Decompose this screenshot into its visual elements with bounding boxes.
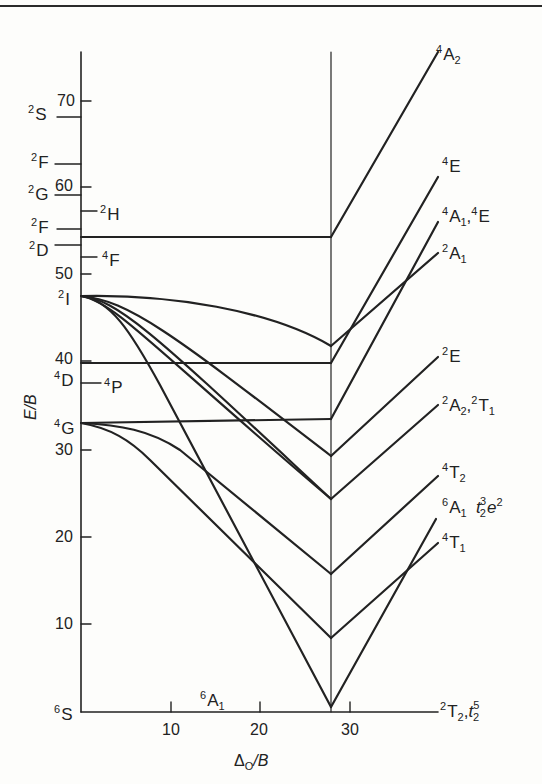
term-6S: 6S (54, 704, 72, 723)
x-ticks (171, 702, 350, 712)
term-4P: 4P (104, 377, 122, 396)
state-2A1: 2A1 (442, 243, 467, 265)
y-tick-40: 40 (55, 351, 73, 367)
state-4A1-4E: 4A1,4E (442, 206, 490, 228)
x-tick-30: 30 (341, 722, 359, 738)
y-axis-label: E/B (22, 394, 40, 420)
state-4T2: 4T2 (442, 462, 466, 484)
4T2-curve (81, 423, 331, 574)
term-2F-lower: 2F (31, 217, 49, 236)
y-tick-70: 70 (57, 93, 75, 109)
term-2H: 2H (100, 204, 119, 223)
state-4A2: 4A2 (436, 44, 461, 66)
x-tick-20: 20 (250, 722, 268, 738)
state-4E: 4E (442, 156, 460, 175)
term-2D: 2D (29, 240, 48, 259)
y-tick-10: 10 (55, 616, 73, 632)
y-tick-60: 60 (55, 178, 73, 194)
free-ion-marks (55, 117, 101, 383)
x-tick-10: 10 (162, 722, 180, 738)
6A1-right (331, 519, 436, 707)
x-axis-label: ΔO/B (234, 752, 268, 772)
state-2A2-2T1: 2A2,2T1 (442, 395, 495, 417)
state-6A1-t2e: 6A1 t23e2 (442, 496, 504, 519)
term-4G: 4G (54, 418, 74, 437)
term-2F-upper: 2F (31, 152, 49, 171)
2T2-curve (81, 296, 331, 707)
state-4T1: 4T1 (442, 532, 466, 554)
state-2E: 2E (442, 346, 460, 365)
term-2I: 2I (58, 289, 70, 308)
tanabe-sugano-plot (0, 0, 542, 784)
term-2S: 2S (28, 104, 46, 123)
term-4F: 4F (102, 250, 120, 269)
y-tick-50: 50 (55, 266, 73, 282)
4T1-curve (81, 423, 331, 638)
2A2-2T1-curve (81, 296, 331, 499)
label-6A1-inside: 6A1 (200, 690, 225, 712)
y-tick-20: 20 (55, 529, 73, 545)
y-tick-30: 30 (55, 442, 73, 458)
term-2G: 2G (28, 184, 48, 203)
state-2T2-t25: 2T2,t25 (440, 700, 480, 723)
4A1-4E-line (81, 419, 331, 423)
term-4D: 4D (54, 370, 73, 389)
